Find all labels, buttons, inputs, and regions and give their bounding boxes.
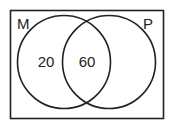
intersection-value: 60 — [79, 53, 96, 70]
set-m-label: M — [17, 15, 30, 32]
set-p-circle — [63, 16, 156, 109]
venn-diagram: M P 20 60 — [0, 0, 171, 126]
set-p-label: P — [143, 15, 153, 32]
m-only-value: 20 — [38, 53, 55, 70]
set-m-circle — [18, 16, 111, 109]
